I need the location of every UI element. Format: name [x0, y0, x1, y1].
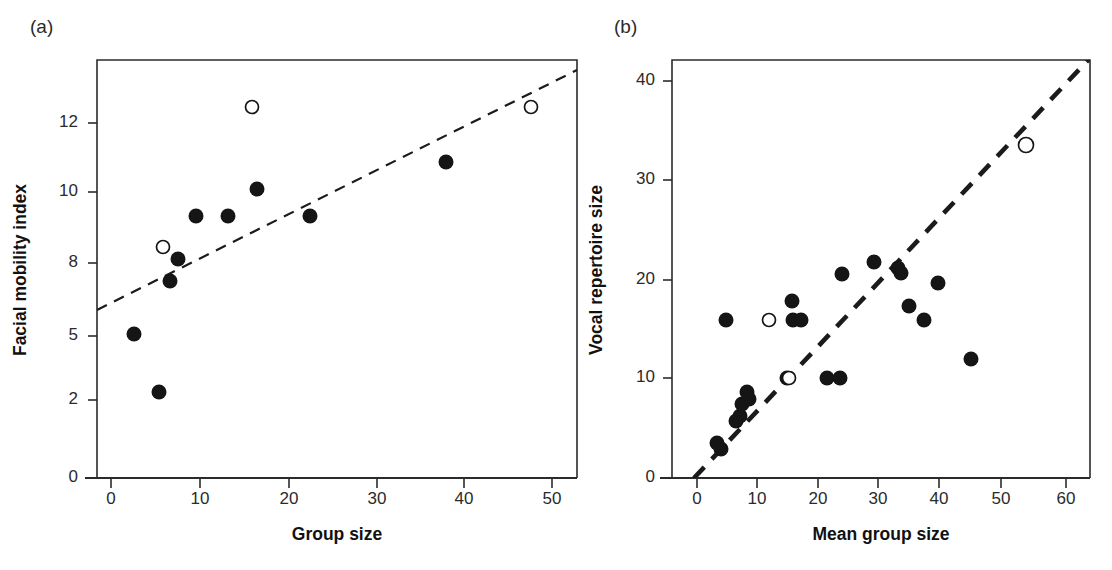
- y-tick-label-a-5: 5: [69, 325, 78, 344]
- x-tick-label-a-40: 40: [455, 489, 474, 508]
- y-tick-label-b-30: 30: [636, 169, 655, 188]
- x-tick-label-b-10: 10: [748, 489, 767, 508]
- data-point-a-7: [246, 101, 259, 114]
- panel-a: (a)1210852001020304050Group sizeFacial m…: [10, 16, 577, 544]
- data-point-b-10: [783, 372, 796, 385]
- data-point-b-7: [742, 392, 757, 407]
- data-point-a-8: [250, 182, 265, 197]
- x-tick-label-a-0: 0: [106, 489, 115, 508]
- data-point-b-14: [820, 371, 835, 386]
- data-point-a-2: [157, 241, 170, 254]
- data-point-b-8: [763, 314, 776, 327]
- x-tick-label-b-0: 0: [692, 489, 701, 508]
- data-point-a-11: [525, 101, 538, 114]
- y-tick-label-b-20: 20: [636, 269, 655, 288]
- data-point-a-6: [221, 209, 236, 224]
- data-point-a-10: [439, 155, 454, 170]
- figure-canvas: (a)1210852001020304050Group sizeFacial m…: [0, 0, 1112, 570]
- y-tick-label-a-10: 10: [59, 181, 78, 200]
- y-tick-label-b-0: 0: [646, 467, 655, 486]
- data-point-b-24: [1019, 138, 1034, 153]
- data-point-a-1: [152, 385, 167, 400]
- data-point-b-15: [835, 267, 850, 282]
- data-point-a-3: [163, 274, 178, 289]
- y-tick-label-a-8: 8: [69, 252, 78, 271]
- y-tick-label-a-0: 0: [69, 467, 78, 486]
- x-tick-label-a-20: 20: [280, 489, 299, 508]
- data-point-b-21: [902, 299, 917, 314]
- data-point-b-23: [964, 352, 979, 367]
- plot-area-b: [694, 58, 1090, 478]
- data-point-b-17: [867, 255, 882, 270]
- x-tick-label-b-20: 20: [809, 489, 828, 508]
- data-point-a-0: [127, 327, 142, 342]
- panel-label-b: (b): [614, 16, 637, 37]
- x-tick-label-b-30: 30: [869, 489, 888, 508]
- data-point-b-16: [833, 371, 848, 386]
- x-tick-label-a-50: 50: [543, 489, 562, 508]
- y-tick-label-a-12: 12: [59, 112, 78, 131]
- data-point-b-11: [785, 294, 800, 309]
- y-tick-label-a-2: 2: [69, 389, 78, 408]
- plot-frame-a: [97, 60, 577, 478]
- x-axis-title-a: Group size: [292, 524, 383, 544]
- data-point-b-2: [719, 313, 734, 328]
- y-axis-title-a: Facial mobility index: [10, 184, 30, 356]
- figure-svg: (a)1210852001020304050Group sizeFacial m…: [0, 0, 1112, 570]
- data-point-a-5: [189, 209, 204, 224]
- x-tick-label-b-50: 50: [992, 489, 1011, 508]
- data-point-a-9: [303, 209, 318, 224]
- data-point-b-22: [917, 313, 932, 328]
- data-point-b-20: [931, 276, 946, 291]
- plot-area-a: [97, 70, 577, 400]
- x-tick-label-a-10: 10: [191, 489, 210, 508]
- y-tick-label-b-10: 10: [636, 367, 655, 386]
- data-point-b-1: [714, 442, 729, 457]
- y-axis-title-b: Vocal repertoire size: [586, 185, 606, 355]
- y-tick-label-b-40: 40: [636, 70, 655, 89]
- panel-label-a: (a): [30, 16, 53, 37]
- x-tick-label-b-40: 40: [930, 489, 949, 508]
- panel-b: (b)4030201000102030405060Mean group size…: [586, 16, 1090, 544]
- data-point-b-13: [794, 313, 809, 328]
- data-point-a-4: [171, 252, 186, 267]
- x-axis-title-b: Mean group size: [812, 524, 949, 544]
- x-tick-label-b-60: 60: [1057, 489, 1076, 508]
- x-tick-label-a-30: 30: [368, 489, 387, 508]
- data-point-b-19: [894, 266, 909, 281]
